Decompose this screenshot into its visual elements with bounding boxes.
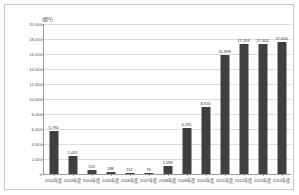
y-axis-tick-label: 6,000 <box>32 127 42 132</box>
x-axis-tick-label: 2005年度 <box>102 177 119 183</box>
bar-value-label: 5,790 <box>48 125 58 130</box>
x-axis-tick-mark <box>130 174 131 176</box>
bar-group: 1122006年度 <box>120 24 139 174</box>
bar-group: 17,3022013年度 <box>253 24 272 174</box>
bar-value-label: 2,443 <box>67 150 77 155</box>
x-axis-tick-label: 2010年度 <box>197 177 214 183</box>
bar-value-label: 76 <box>146 167 150 172</box>
x-axis-tick-mark <box>225 174 226 176</box>
chart-frame: (億円) 20,00018,00016,00014,00012,00010,00… <box>4 4 294 190</box>
x-axis-tick-mark <box>263 174 264 176</box>
bar-value-label: 513 <box>88 164 95 169</box>
x-axis-tick-mark <box>111 174 112 176</box>
bar-group: 17,2932012年度 <box>234 24 253 174</box>
x-axis-tick-label: 2009年度 <box>178 177 195 183</box>
bar-group: 1,0982008年度 <box>158 24 177 174</box>
y-axis-tick-label: 2,000 <box>32 157 42 162</box>
plot-area: 20,00018,00016,00014,00012,00010,0008,00… <box>43 24 291 175</box>
bar <box>258 44 267 174</box>
y-axis-tick-label: 16,000 <box>29 52 42 57</box>
x-axis-tick-label: 2004年度 <box>83 177 100 183</box>
y-axis-tick-label: 20,000 <box>29 22 42 27</box>
bar <box>220 55 229 174</box>
bar <box>182 128 191 174</box>
bar-value-label: 1,098 <box>162 160 172 165</box>
bar <box>277 42 286 174</box>
chart-screenshot: (億円) 20,00018,00016,00014,00012,00010,00… <box>0 0 299 195</box>
x-axis-tick-mark <box>282 174 283 176</box>
x-axis-tick-label: 2013年度 <box>254 177 271 183</box>
bar-group: 2882005年度 <box>101 24 120 174</box>
y-axis-tick-label: 8,000 <box>32 112 42 117</box>
x-axis-tick-mark <box>244 174 245 176</box>
x-axis-tick-label: 2002年度 <box>45 177 62 183</box>
x-axis-tick-label: 2011年度 <box>216 177 233 183</box>
bar-value-label: 8,920 <box>200 101 210 106</box>
x-axis-tick-label: 2003年度 <box>64 177 81 183</box>
x-axis-tick-mark <box>187 174 188 176</box>
bar-value-label: 17,302 <box>256 38 268 43</box>
bar-value-label: 288 <box>107 166 114 171</box>
x-axis-tick-mark <box>73 174 74 176</box>
bar-group: 17,6342014年度 <box>272 24 291 174</box>
bar <box>201 107 210 174</box>
x-axis-tick-label: 2006年度 <box>121 177 138 183</box>
x-axis-tick-mark <box>92 174 93 176</box>
y-axis-tick-label: 14,000 <box>29 67 42 72</box>
bar-value-label: 112 <box>126 167 132 172</box>
bar-value-label: 15,898 <box>218 49 230 54</box>
x-axis-tick-label: 2012年度 <box>235 177 252 183</box>
y-axis-tick-label: 18,000 <box>29 37 42 42</box>
bar <box>239 44 248 174</box>
bar-value-label: 17,634 <box>275 36 287 41</box>
bar-group: 8,9202010年度 <box>196 24 215 174</box>
bar <box>163 166 172 174</box>
bar-group: 15,8982011年度 <box>215 24 234 174</box>
bar <box>49 131 58 174</box>
x-axis-tick-mark <box>54 174 55 176</box>
x-axis-tick-mark <box>206 174 207 176</box>
bar-group: 5,7902002年度 <box>44 24 63 174</box>
bar-value-label: 17,293 <box>237 38 249 43</box>
y-axis-tick-mark <box>42 174 44 175</box>
bar-group: 6,1852009年度 <box>177 24 196 174</box>
bar <box>68 156 77 174</box>
y-axis-tick-label: 10,000 <box>29 97 42 102</box>
bar-group: 762007年度 <box>139 24 158 174</box>
bar-value-label: 6,185 <box>181 122 191 127</box>
y-axis-tick-label: 4,000 <box>32 142 42 147</box>
bar-group: 2,4432003年度 <box>63 24 82 174</box>
x-axis-tick-mark <box>168 174 169 176</box>
x-axis-tick-label: 2014年度 <box>273 177 290 183</box>
x-axis-tick-label: 2008年度 <box>159 177 176 183</box>
bar-series: 5,7902002年度2,4432003年度5132004年度2882005年度… <box>44 24 291 174</box>
x-axis-tick-mark <box>149 174 150 176</box>
x-axis-tick-label: 2007年度 <box>140 177 157 183</box>
y-axis-tick-label: 12,000 <box>29 82 42 87</box>
bar-group: 5132004年度 <box>82 24 101 174</box>
y-axis-unit-label: (億円) <box>42 16 53 22</box>
